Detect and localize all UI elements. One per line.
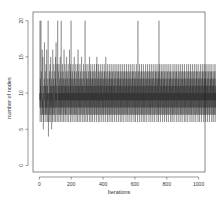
x-tick-label: 200 <box>67 181 76 187</box>
chart: 02004006008001000 05101520 Iterations nu… <box>0 0 216 204</box>
y-tick-label: 10 <box>18 90 24 96</box>
y-tick-label: 0 <box>18 164 24 167</box>
y-axis: 05101520 <box>18 18 28 167</box>
x-tick-label: 0 <box>38 181 41 187</box>
x-axis-title: Iterations <box>108 189 131 195</box>
y-tick-label: 15 <box>18 54 24 60</box>
x-axis: 02004006008001000 <box>38 177 204 187</box>
y-tick-label: 20 <box>18 18 24 24</box>
x-tick-label: 1000 <box>193 181 204 187</box>
x-tick-label: 400 <box>99 181 108 187</box>
series-line <box>40 21 216 137</box>
series-layer <box>40 21 216 137</box>
y-tick-label: 5 <box>18 128 24 131</box>
x-tick-label: 600 <box>131 181 140 187</box>
y-axis-title: number of nodes <box>6 77 12 119</box>
x-tick-label: 800 <box>163 181 172 187</box>
